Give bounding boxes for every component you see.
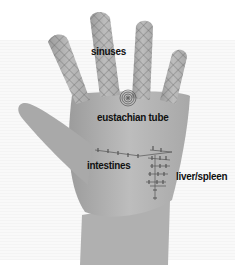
label-eustachian-tube: eustachian tube xyxy=(97,111,168,123)
label-sinuses: sinuses xyxy=(91,45,126,57)
label-intestines: intestines xyxy=(87,159,131,171)
label-liver-spleen: liver/spleen xyxy=(176,170,227,182)
sinus-grid-zones xyxy=(48,12,187,104)
hand-illustration xyxy=(0,0,235,277)
